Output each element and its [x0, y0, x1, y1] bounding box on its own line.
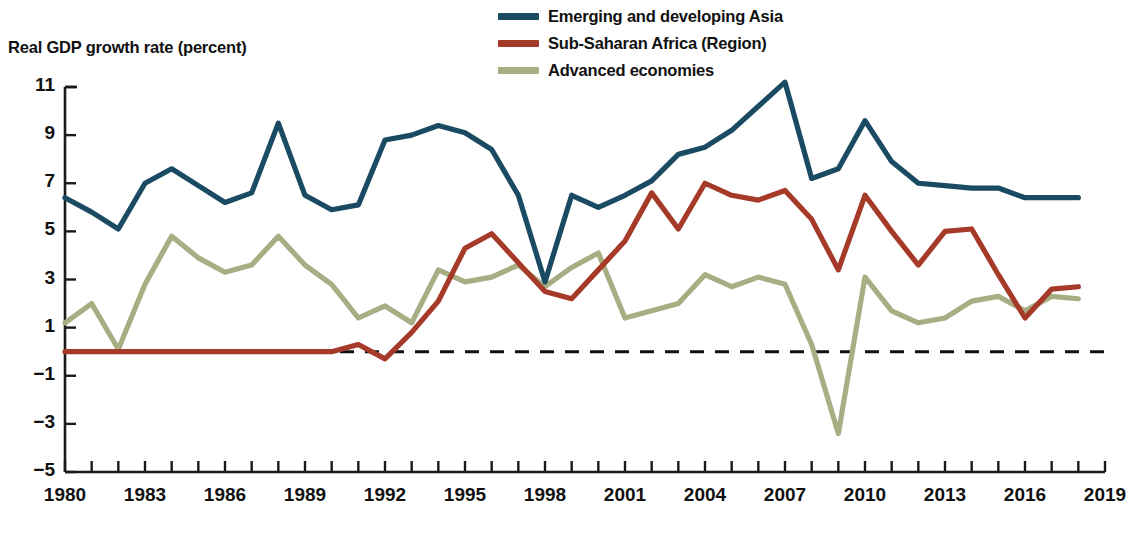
- x-axis-tick-label: 1989: [265, 484, 345, 506]
- series-line-advanced-economies[interactable]: [65, 236, 1078, 433]
- y-axis-tick-label: 11: [11, 74, 55, 96]
- chart-plot-area: [0, 0, 1146, 534]
- x-axis-tick-label: 2010: [825, 484, 905, 506]
- y-axis-tick-label: 3: [11, 267, 55, 289]
- y-axis-tick-label: −3: [11, 411, 55, 433]
- x-axis-tick-label: 1992: [345, 484, 425, 506]
- x-axis-tick-label: 2001: [585, 484, 665, 506]
- x-axis-tick-label: 2019: [1065, 484, 1145, 506]
- y-axis-tick-label: 1: [11, 315, 55, 337]
- x-axis-tick-label: 2004: [665, 484, 745, 506]
- y-axis-tick-label: 5: [11, 218, 55, 240]
- y-axis-tick-label: 9: [11, 122, 55, 144]
- series-line-sub-saharan-africa-region[interactable]: [65, 183, 1078, 359]
- x-axis-tick-label: 1986: [185, 484, 265, 506]
- x-axis-tick-label: 1995: [425, 484, 505, 506]
- chart-figure: Real GDP growth rate (percent) Emerging …: [0, 0, 1146, 534]
- x-axis-tick-label: 2016: [985, 484, 1065, 506]
- x-axis-tick-label: 1983: [105, 484, 185, 506]
- y-axis-tick-label: 7: [11, 170, 55, 192]
- x-axis-tick-label: 1980: [25, 484, 105, 506]
- y-axis-tick-label: −1: [11, 363, 55, 385]
- y-axis-tick-label: −5: [11, 459, 55, 481]
- x-axis-tick-label: 1998: [505, 484, 585, 506]
- x-axis-tick-label: 2007: [745, 484, 825, 506]
- x-axis-tick-label: 2013: [905, 484, 985, 506]
